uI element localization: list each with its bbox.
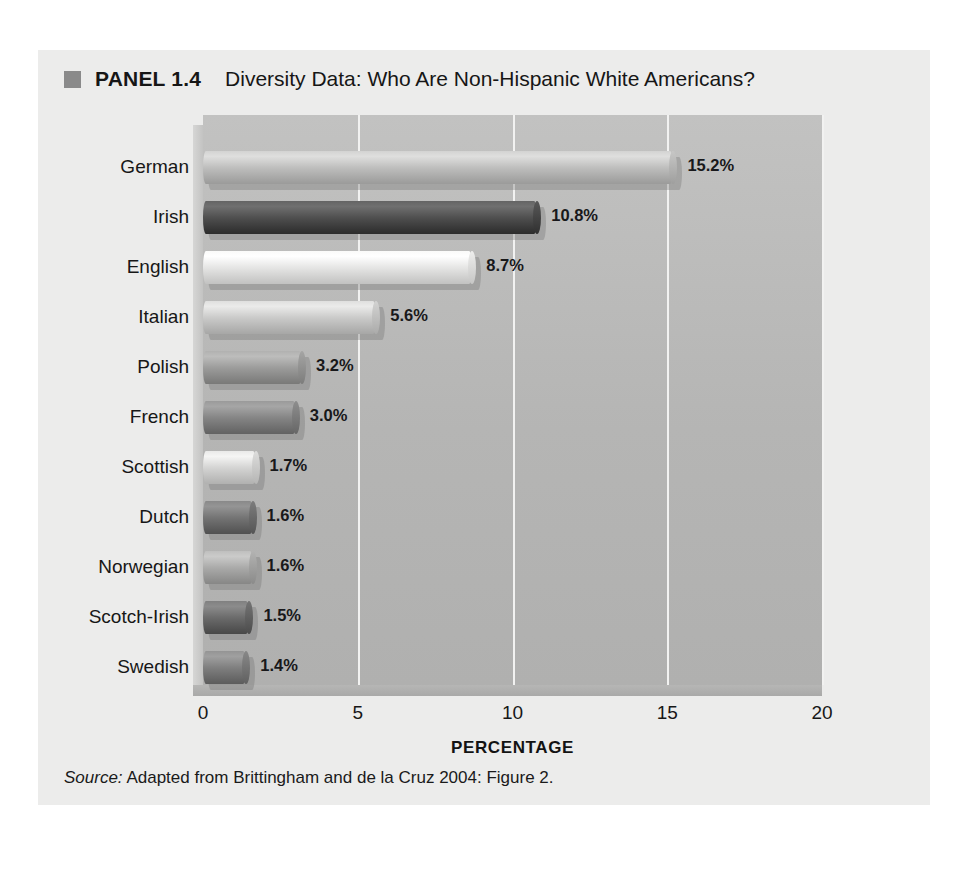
source-note: Source: Adapted from Brittingham and de … [64, 768, 554, 788]
bar-value-label: 1.7% [270, 456, 308, 475]
bar-value-label: 8.7% [486, 256, 524, 275]
x-axis-tick-label: 5 [352, 702, 363, 724]
bar-value-label: 3.2% [316, 356, 354, 375]
bar-end-cap [292, 401, 300, 434]
bar-value-label: 1.5% [263, 606, 301, 625]
y-axis-label: Norwegian [98, 556, 189, 578]
bar-value-label: 5.6% [390, 306, 428, 325]
y-axis-label: German [120, 156, 189, 178]
y-axis-label: Swedish [117, 656, 189, 678]
y-axis-label: English [127, 256, 189, 278]
bar[interactable] [203, 201, 537, 234]
bar-value-label: 10.8% [551, 206, 598, 225]
bar[interactable] [203, 251, 472, 284]
bar[interactable] [203, 351, 302, 384]
bar[interactable] [203, 301, 376, 334]
plot-left-wall [193, 125, 203, 695]
panel-container: PANEL 1.4 Diversity Data: Who Are Non-Hi… [38, 50, 930, 805]
x-axis-tick-label: 15 [657, 702, 678, 724]
y-axis-label: Scotch-Irish [89, 606, 189, 628]
x-axis-tick-label: 10 [502, 702, 523, 724]
y-axis-label: Italian [138, 306, 189, 328]
bar[interactable] [203, 601, 249, 634]
y-axis-label: Irish [153, 206, 189, 228]
bar-end-cap [252, 451, 260, 484]
bar[interactable] [203, 501, 253, 534]
bar[interactable] [203, 651, 246, 684]
x-axis-tick-label: 20 [811, 702, 832, 724]
plot-floor [193, 685, 822, 696]
y-axis-label: French [130, 406, 189, 428]
y-axis-label: Polish [137, 356, 189, 378]
source-label: Source: [64, 768, 123, 787]
bar[interactable] [203, 151, 673, 184]
gridline [667, 115, 669, 685]
bar-value-label: 1.4% [260, 656, 298, 675]
bar-value-label: 1.6% [267, 506, 305, 525]
bar[interactable] [203, 401, 296, 434]
bar-value-label: 15.2% [687, 156, 734, 175]
bar[interactable] [203, 451, 256, 484]
gridline [822, 115, 824, 685]
bar-end-cap [249, 551, 257, 584]
bar-end-cap [298, 351, 306, 384]
y-axis-label: Scottish [121, 456, 189, 478]
source-text: Adapted from Brittingham and de la Cruz … [123, 768, 554, 787]
bar[interactable] [203, 551, 253, 584]
x-axis-title: PERCENTAGE [203, 738, 822, 758]
x-axis-tick-label: 0 [198, 702, 209, 724]
bar-end-cap [249, 501, 257, 534]
bar-value-label: 1.6% [267, 556, 305, 575]
y-axis-label: Dutch [139, 506, 189, 528]
bar-value-label: 3.0% [310, 406, 348, 425]
